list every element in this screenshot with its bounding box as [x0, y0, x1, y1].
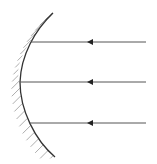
- hatch-line: [45, 155, 53, 163]
- hatch-line: [40, 150, 48, 158]
- hatch-line: [23, 125, 31, 133]
- hatch-line: [14, 103, 22, 111]
- hatch-line: [12, 81, 20, 89]
- hatch-line: [31, 139, 39, 147]
- hatch-line: [35, 145, 43, 153]
- hatch-line: [17, 111, 25, 119]
- arrowhead-left-icon: [87, 120, 93, 126]
- ray-bottom: [30, 120, 146, 126]
- arrowhead-left-icon: [87, 39, 93, 45]
- ray-middle: [20, 79, 146, 85]
- hatch-line: [13, 96, 21, 104]
- mirror-surface: [20, 13, 55, 157]
- hatch-line: [12, 88, 20, 96]
- ray-top: [31, 39, 146, 45]
- arrowhead-left-icon: [87, 79, 93, 85]
- convex-mirror-diagram: [0, 0, 157, 163]
- hatch-line: [26, 132, 34, 140]
- hatch-line: [19, 118, 27, 126]
- hatch-line: [40, 17, 48, 25]
- mirror-hatching: [12, 13, 54, 164]
- incident-rays: [20, 39, 146, 126]
- hatch-line: [12, 73, 20, 81]
